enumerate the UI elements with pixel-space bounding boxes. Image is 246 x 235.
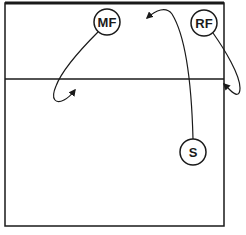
player-s: S	[180, 139, 206, 165]
player-rf-label: RF	[195, 16, 212, 31]
court-diagram: MF RF S	[0, 0, 246, 235]
player-mf: MF	[94, 9, 120, 35]
s-movement-arrow	[147, 10, 193, 139]
player-rf: RF	[191, 10, 217, 36]
mf-movement-arrow	[54, 32, 98, 101]
player-mf-label: MF	[98, 15, 117, 30]
court-boundary	[5, 3, 224, 226]
player-s-label: S	[189, 145, 198, 160]
rf-movement-arrow	[213, 33, 240, 94]
